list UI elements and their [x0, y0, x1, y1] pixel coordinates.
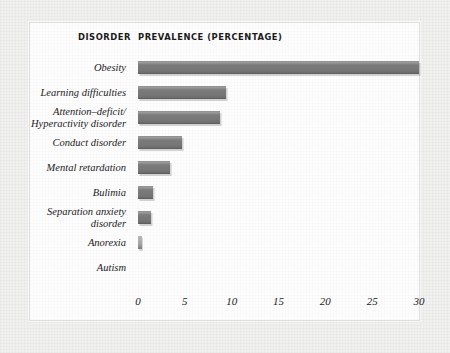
category-label: Mental retardation: [30, 155, 130, 180]
chart-row: Separation anxietydisorder: [30, 205, 419, 230]
bar-track: [138, 55, 419, 80]
bar: [138, 111, 220, 124]
bar: [138, 161, 170, 174]
bar-track: [138, 230, 419, 255]
bar: [138, 236, 142, 249]
chart-row: Obesity: [30, 55, 419, 80]
x-axis: 051015202530: [138, 295, 419, 315]
chart-plate: DISORDER PREVALENCE (PERCENTAGE) Obesity…: [29, 22, 420, 321]
figure-root: DISORDER PREVALENCE (PERCENTAGE) Obesity…: [0, 0, 450, 353]
category-label-line: Attention–deficit/: [53, 106, 126, 118]
category-label-line: Separation anxiety: [47, 206, 126, 218]
category-label-line: Conduct disorder: [53, 137, 126, 149]
category-label-line: Bulimia: [93, 187, 126, 199]
x-tick-label: 20: [320, 295, 331, 307]
x-tick-label: 15: [273, 295, 284, 307]
category-label: Attention–deficit/Hyperactivity disorder: [30, 105, 130, 130]
chart-row: Learning difficulties: [30, 80, 419, 105]
bar-track: [138, 255, 419, 280]
category-label-line: Anorexia: [88, 237, 126, 249]
category-label-line: Hyperactivity disorder: [31, 118, 126, 130]
x-tick-label: 5: [182, 295, 188, 307]
bar-track: [138, 80, 419, 105]
category-label-line: Learning difficulties: [41, 87, 126, 99]
bar-chart-body: ObesityLearning difficultiesAttention–de…: [30, 55, 419, 290]
category-label: Obesity: [30, 55, 130, 80]
x-tick-label: 25: [367, 295, 378, 307]
x-tick-label: 30: [414, 295, 425, 307]
header-prevalence: PREVALENCE (PERCENTAGE): [138, 31, 282, 42]
category-label: Separation anxietydisorder: [30, 205, 130, 230]
category-label: Autism: [30, 255, 130, 280]
category-label-line: disorder: [91, 218, 126, 230]
bar-track: [138, 205, 419, 230]
bar: [138, 136, 182, 149]
chart-row: Attention–deficit/Hyperactivity disorder: [30, 105, 419, 130]
bar-track: [138, 105, 419, 130]
bar: [138, 61, 419, 74]
bar-track: [138, 180, 419, 205]
bar: [138, 86, 226, 99]
category-label-line: Mental retardation: [47, 162, 126, 174]
header-disorder: DISORDER: [78, 31, 131, 42]
chart-row: Autism: [30, 255, 419, 280]
bar: [138, 186, 153, 199]
chart-row: Bulimia: [30, 180, 419, 205]
category-label: Anorexia: [30, 230, 130, 255]
bar-track: [138, 155, 419, 180]
category-label: Bulimia: [30, 180, 130, 205]
bar: [138, 211, 151, 224]
x-tick-label: 0: [135, 295, 141, 307]
bar-track: [138, 130, 419, 155]
chart-row: Mental retardation: [30, 155, 419, 180]
category-label-line: Obesity: [94, 62, 126, 74]
chart-row: Anorexia: [30, 230, 419, 255]
x-tick-label: 10: [226, 295, 237, 307]
category-label: Conduct disorder: [30, 130, 130, 155]
category-label-line: Autism: [97, 262, 126, 274]
chart-row: Conduct disorder: [30, 130, 419, 155]
category-label: Learning difficulties: [30, 80, 130, 105]
column-headers: DISORDER PREVALENCE (PERCENTAGE): [30, 31, 419, 47]
